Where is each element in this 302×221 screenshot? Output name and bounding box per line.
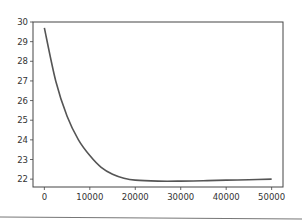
x-tick-label: 0 <box>42 192 47 202</box>
x-tick-label: 20000 <box>122 192 149 202</box>
y-tick-label: 25 <box>17 115 28 125</box>
y-tick-label: 24 <box>17 135 28 145</box>
y-axis: 222324252627282930 <box>17 17 33 184</box>
y-tick-label: 22 <box>17 174 28 184</box>
y-tick-label: 26 <box>17 96 28 106</box>
bottom-divider <box>0 217 302 219</box>
y-tick-label: 28 <box>17 56 28 66</box>
plot-frame <box>33 22 283 187</box>
line-chart: 222324252627282930 010000200003000040000… <box>0 0 302 221</box>
x-tick-label: 40000 <box>213 192 240 202</box>
data-line <box>44 28 271 181</box>
x-tick-label: 10000 <box>76 192 103 202</box>
y-tick-label: 30 <box>17 17 28 27</box>
x-tick-label: 50000 <box>258 192 285 202</box>
y-tick-label: 29 <box>17 37 28 47</box>
y-tick-label: 27 <box>17 76 28 86</box>
y-tick-label: 23 <box>17 155 28 165</box>
x-axis: 01000020000300004000050000 <box>42 187 286 202</box>
x-tick-label: 30000 <box>167 192 194 202</box>
plot-border <box>33 22 283 187</box>
